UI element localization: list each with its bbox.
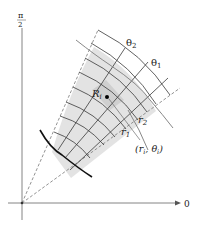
polar-region-diagram: 0 π 2 θ2 θ1 Ri r2 r1 (ri, θi) bbox=[0, 0, 217, 228]
polar-axis-arrow-icon bbox=[175, 201, 181, 206]
label-theta1: θ1 bbox=[151, 57, 162, 70]
origin-point bbox=[21, 202, 24, 205]
label-theta2: θ2 bbox=[126, 37, 137, 50]
axis-label-zero: 0 bbox=[184, 199, 190, 209]
axis-label-two: 2 bbox=[18, 21, 22, 29]
label-point-coords: (ri, θi) bbox=[135, 143, 163, 156]
sample-point bbox=[105, 95, 109, 99]
axis-label-pi: π bbox=[18, 11, 23, 20]
